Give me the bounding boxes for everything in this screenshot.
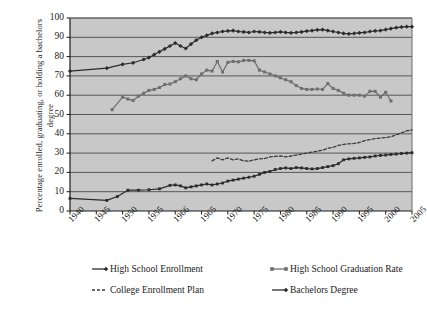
data-point [184, 74, 187, 77]
data-point [142, 92, 145, 95]
y-tick-label: 100 [38, 13, 64, 22]
data-point [284, 78, 287, 81]
data-point [179, 77, 182, 80]
data-point [279, 167, 282, 170]
data-point [290, 167, 293, 170]
legend-label: High School Graduation Rate [290, 264, 403, 275]
y-tick-label: 20 [38, 167, 64, 176]
y-tick-label: 80 [38, 52, 64, 61]
data-point [158, 187, 161, 190]
data-point [274, 168, 277, 171]
y-tick-label: 30 [38, 148, 64, 157]
data-point [195, 78, 198, 81]
data-point [237, 60, 240, 63]
data-point [184, 186, 187, 189]
data-point [221, 182, 224, 185]
data-point [300, 167, 303, 170]
data-point [269, 170, 272, 173]
data-point [295, 166, 298, 169]
data-point [379, 96, 382, 99]
data-point [111, 108, 114, 111]
data-point [216, 60, 219, 63]
data-point [374, 90, 377, 93]
data-point [216, 183, 219, 186]
data-point [321, 88, 324, 91]
data-point [226, 61, 229, 64]
legend-label: College Enrollment Plan [110, 285, 204, 296]
data-point [237, 178, 240, 181]
data-point [300, 87, 303, 90]
data-point [169, 184, 172, 187]
legend-label: High School Enrollment [110, 264, 203, 275]
data-point [295, 84, 298, 87]
data-point [358, 157, 361, 160]
data-point [247, 59, 250, 62]
data-point [305, 88, 308, 91]
data-point [358, 94, 361, 97]
data-point [369, 156, 372, 159]
y-tick-label: 70 [38, 71, 64, 80]
data-point [389, 99, 392, 102]
data-point [179, 185, 182, 188]
data-point [158, 86, 161, 89]
data-point [384, 154, 387, 157]
data-point [311, 168, 314, 171]
data-point [305, 167, 308, 170]
data-point [347, 94, 350, 97]
data-point [347, 157, 350, 160]
data-point [226, 180, 229, 183]
data-point [190, 185, 193, 188]
data-point [69, 197, 72, 200]
data-point [242, 177, 245, 180]
data-point [268, 72, 271, 75]
data-point [326, 165, 329, 168]
data-point [137, 95, 140, 98]
data-point [337, 162, 340, 165]
data-point [342, 158, 345, 161]
y-tick-label: 50 [38, 110, 64, 119]
data-point [253, 59, 256, 62]
data-point [242, 59, 245, 62]
data-point [174, 80, 177, 83]
y-tick-label: 60 [38, 90, 64, 99]
data-point [353, 157, 356, 160]
data-point [195, 185, 198, 188]
data-point [148, 188, 151, 191]
data-point [232, 60, 235, 63]
data-point [105, 199, 108, 202]
data-point [205, 183, 208, 186]
data-point [332, 87, 335, 90]
data-point [200, 184, 203, 187]
data-point [190, 77, 193, 80]
y-tick-label: 90 [38, 32, 64, 41]
data-point [132, 99, 135, 102]
data-point [374, 155, 377, 158]
y-tick-label: 10 [38, 187, 64, 196]
data-point [326, 82, 329, 85]
data-point [174, 184, 177, 187]
data-point [337, 89, 340, 92]
data-point [379, 154, 382, 157]
data-point [211, 184, 214, 187]
data-point [316, 88, 319, 91]
data-point [342, 92, 345, 95]
y-tick-label: 0 [38, 206, 64, 215]
data-point [368, 90, 371, 93]
data-point [147, 89, 150, 92]
data-point [137, 189, 140, 192]
data-point [205, 69, 208, 72]
data-point [332, 164, 335, 167]
data-point [263, 171, 266, 174]
data-point [284, 167, 287, 170]
data-point [411, 151, 414, 154]
data-point [126, 189, 129, 192]
data-point [116, 195, 119, 198]
data-point [395, 153, 398, 156]
data-point [153, 88, 156, 91]
data-point [363, 95, 366, 98]
data-point [221, 71, 224, 74]
data-point [289, 80, 292, 83]
data-point [263, 71, 266, 74]
data-point [126, 98, 129, 101]
data-point [384, 91, 387, 94]
